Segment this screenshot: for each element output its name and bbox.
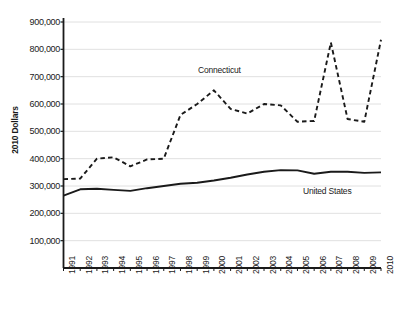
x-tick-label: 1998 [184,256,194,274]
x-tick-label: 2005 [301,256,311,274]
x-tick-label: 2000 [217,256,227,274]
x-tick-label: 2004 [284,256,294,274]
x-tick-label: 1997 [167,256,177,274]
x-tick-label: 1992 [84,256,94,274]
x-tick-label: 2009 [368,256,378,274]
chart-container: 2010 Dollars 100,000200,000300,000400,00… [0,0,395,312]
series-label-united-states: United States [303,186,351,196]
x-tick-label: 2001 [234,256,244,274]
x-tick-label: 1994 [117,256,127,274]
x-tick-label: 2010 [385,256,395,274]
x-tick-label: 1995 [134,256,144,274]
x-tick-label: 1996 [151,256,161,274]
x-tick-label: 2008 [351,256,361,274]
series-label-connecticut: Connecticut [198,65,241,75]
x-tick-label: 1991 [67,256,77,274]
x-tick-label: 2006 [318,256,328,274]
x-tick-label: 2002 [251,256,261,274]
x-tick-label: 2007 [334,256,344,274]
x-tick-label: 1999 [201,256,211,274]
x-axis-tick-labels: 1991199219931994199519961997199819992000… [0,0,395,312]
x-tick-label: 2003 [268,256,278,274]
x-tick-label: 1993 [100,256,110,274]
